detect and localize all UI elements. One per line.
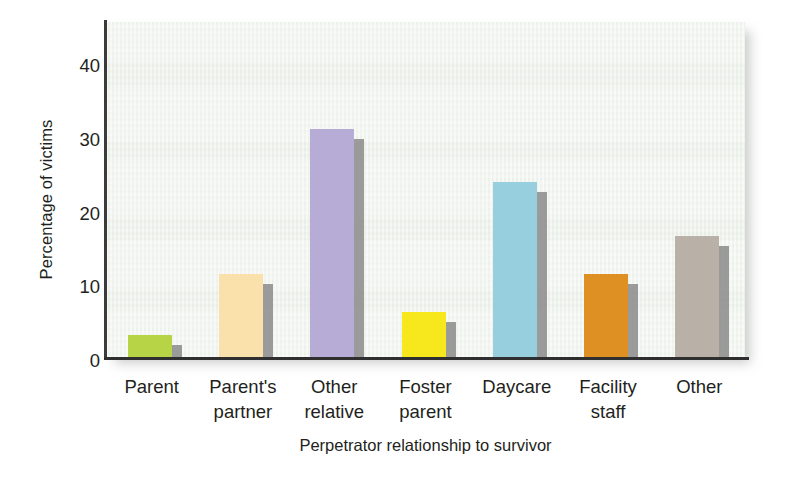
bar-daycare (493, 182, 551, 358)
y-tick-label-0: 0 (56, 352, 100, 371)
bar-face (675, 236, 719, 358)
x-tick-label-0: Parent (106, 374, 197, 399)
x-tick-label-6: Other (654, 374, 745, 399)
x-tick-line-1: Other (311, 376, 357, 397)
x-tick-label-3: Fosterparent (380, 374, 471, 424)
bar-foster-parent (402, 312, 460, 358)
bar-face (402, 312, 446, 358)
x-axis-title: Perpetrator relationship to survivor (106, 436, 745, 455)
x-tick-line-1: Facility (579, 376, 637, 397)
y-tick-label-30: 30 (56, 131, 100, 150)
x-tick-label-2: Otherrelative (289, 374, 380, 424)
x-tick-line-2: parent (380, 399, 471, 424)
x-tick-label-1: Parent'spartner (197, 374, 288, 424)
bar-other (675, 236, 733, 358)
bar-parent (128, 335, 186, 358)
y-tick-label-10: 10 (56, 278, 100, 297)
bar-face (584, 274, 628, 358)
x-tick-line-1: Other (676, 376, 722, 397)
x-tick-label-4: Daycare (471, 374, 562, 399)
bar-parent-s-partner (219, 274, 277, 358)
x-tick-line-1: Parent (124, 376, 179, 397)
x-tick-line-2: partner (197, 399, 288, 424)
x-tick-label-5: Facilitystaff (562, 374, 653, 424)
x-axis-line (104, 357, 749, 360)
y-axis-line (104, 20, 107, 360)
y-tick-label-20: 20 (56, 205, 100, 224)
bar-facility-staff (584, 274, 642, 358)
x-tick-line-1: Foster (399, 376, 451, 397)
x-tick-line-2: relative (289, 399, 380, 424)
bar-face (310, 129, 354, 358)
x-tick-line-2: staff (562, 399, 653, 424)
x-axis-tick-labels: ParentParent'spartnerOtherrelativeFoster… (106, 374, 745, 432)
bar-series (106, 22, 745, 358)
bar-face (219, 274, 263, 358)
bar-other-relative (310, 129, 368, 358)
bar-chart-figure: Percentage of victims 0 10 20 30 40 Pare… (0, 0, 800, 479)
x-tick-line-1: Parent's (209, 376, 276, 397)
bar-face (493, 182, 537, 358)
x-tick-line-1: Daycare (482, 376, 551, 397)
y-axis-tick-labels: 0 10 20 30 40 (52, 0, 100, 479)
y-tick-label-40: 40 (56, 57, 100, 76)
bar-face (128, 335, 172, 358)
